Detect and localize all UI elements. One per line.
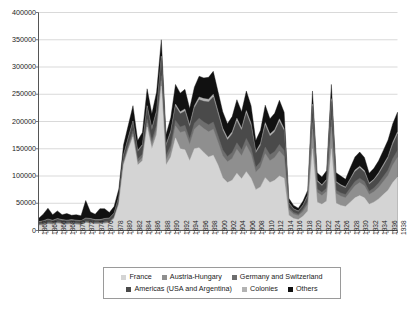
- y-tick-label: 100000: [2, 172, 36, 180]
- legend-swatch-icon: [288, 287, 293, 292]
- y-tick-label: 150000: [2, 145, 36, 153]
- y-tick-label: 0: [2, 227, 36, 235]
- legend-label: Others: [296, 285, 318, 293]
- legend-label: Austria-Hungary: [170, 273, 222, 281]
- y-tick-label: 300000: [2, 63, 36, 71]
- legend-swatch-icon: [162, 275, 167, 280]
- legend-label: Americas (USA and Argentina): [134, 285, 231, 293]
- legend-item: Americas (USA and Argentina): [126, 285, 231, 293]
- y-tick-label: 350000: [2, 36, 36, 44]
- legend-row: FranceAustria-HungaryGermany and Switzer…: [108, 271, 336, 283]
- y-axis-labels: 4000003500003000002500002000001500001000…: [0, 0, 36, 309]
- legend-item: France: [121, 273, 151, 281]
- legend-swatch-icon: [121, 275, 126, 280]
- legend-item: Colonies: [242, 285, 278, 293]
- legend-swatch-icon: [126, 287, 131, 292]
- y-tick-label: 200000: [2, 118, 36, 126]
- legend-label: Germany and Switzerland: [240, 273, 323, 281]
- legend-label: Colonies: [250, 285, 278, 293]
- y-tick-label: 400000: [2, 9, 36, 17]
- legend-label: France: [129, 273, 151, 281]
- legend-row: Americas (USA and Argentina)ColoniesOthe…: [108, 283, 336, 295]
- y-tick-label: 50000: [2, 199, 36, 207]
- series-areas: [39, 40, 398, 231]
- legend-item: Austria-Hungary: [162, 273, 222, 281]
- y-tick-label: 250000: [2, 90, 36, 98]
- chart-legend: FranceAustria-HungaryGermany and Switzer…: [103, 267, 341, 299]
- legend-swatch-icon: [232, 275, 237, 280]
- legend-item: Others: [288, 285, 318, 293]
- legend-swatch-icon: [242, 287, 247, 292]
- legend-item: Germany and Switzerland: [232, 273, 323, 281]
